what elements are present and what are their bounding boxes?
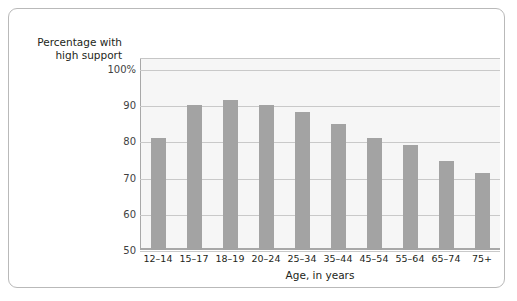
x-axis-title: Age, in years [140, 269, 500, 281]
x-tick-label: 12–14 [144, 253, 173, 264]
gridline [140, 251, 500, 252]
bar [367, 138, 382, 250]
bar [187, 105, 202, 250]
y-axis-tick-labels: 5060708090100% [96, 0, 136, 301]
bar [403, 145, 418, 250]
x-tick-label: 18–19 [216, 253, 245, 264]
bar [223, 100, 238, 250]
bar [439, 161, 454, 250]
y-tick-label: 60 [96, 208, 136, 219]
bar-slot [176, 59, 212, 250]
plot-inner [140, 59, 500, 250]
y-tick-label: 100% [96, 63, 136, 74]
bar-slot [140, 59, 176, 250]
x-tick-label: 25–34 [288, 253, 317, 264]
figure-root: Percentage with high support 50607080901… [0, 0, 517, 301]
y-tick-label: 50 [96, 245, 136, 256]
bar [259, 105, 274, 250]
bar-slot [464, 59, 500, 250]
bar [295, 112, 310, 250]
bar-slot [284, 59, 320, 250]
bar [331, 124, 346, 250]
bar-slot [392, 59, 428, 250]
bar-slot [356, 59, 392, 250]
x-tick-label: 15–17 [180, 253, 209, 264]
x-tick-label: 75+ [472, 253, 492, 264]
bar-slot [212, 59, 248, 250]
bar [475, 173, 490, 250]
y-tick-label: 80 [96, 136, 136, 147]
x-tick-label: 55–64 [396, 253, 425, 264]
plot-area [140, 58, 500, 250]
x-tick-label: 65–74 [432, 253, 461, 264]
bar-slot [428, 59, 464, 250]
x-axis-tick-labels: 12–1415–1718–1920–2425–3435–4445–5455–64… [140, 253, 500, 269]
bar [151, 138, 166, 250]
x-tick-label: 35–44 [324, 253, 353, 264]
x-tick-label: 20–24 [252, 253, 281, 264]
bar-slot [320, 59, 356, 250]
bar-slot [248, 59, 284, 250]
x-tick-label: 45–54 [360, 253, 389, 264]
y-tick-label: 70 [96, 172, 136, 183]
y-tick-label: 90 [96, 100, 136, 111]
